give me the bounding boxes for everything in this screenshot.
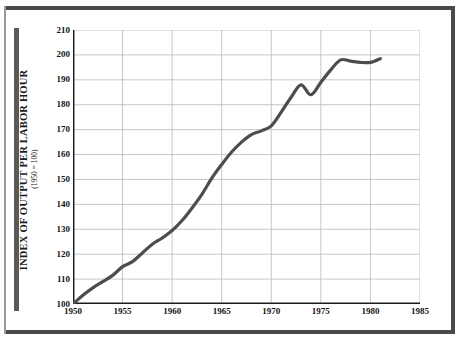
plot-area: [73, 30, 420, 304]
line-chart-svg: [73, 30, 420, 304]
axis-tick-marks: [73, 30, 420, 304]
y-axis-title-group: INDEX OF OUTPUT PER LABOR HOUR (1950 = 1…: [0, 28, 40, 311]
y-tick-label: 130: [44, 225, 70, 234]
data-series-line: [73, 59, 380, 304]
y-tick-label: 120: [44, 250, 70, 259]
horizontal-gridlines: [73, 30, 420, 304]
frame-border-top: [4, 6, 455, 10]
x-tick-label: 1980: [350, 306, 390, 316]
axis-lines: [73, 30, 420, 304]
x-tick-label: 1950: [53, 306, 93, 316]
y-tick-label: 210: [44, 26, 70, 35]
vertical-gridlines: [73, 30, 420, 304]
x-tick-label: 1955: [103, 306, 143, 316]
x-tick-label: 1975: [301, 306, 341, 316]
y-tick-label: 180: [44, 100, 70, 109]
frame-border-bottom: [4, 330, 455, 334]
y-axis-tick-labels: 100110120130140150160170180190200210: [40, 30, 70, 304]
y-tick-label: 170: [44, 125, 70, 134]
x-tick-label: 1960: [152, 306, 192, 316]
y-tick-label: 200: [44, 50, 70, 59]
x-tick-label: 1965: [202, 306, 242, 316]
x-tick-label: 1970: [251, 306, 291, 316]
x-axis-tick-labels: 19501955196019651970197519801985: [73, 306, 420, 320]
frame-border-right: [451, 6, 455, 334]
y-tick-label: 110: [44, 275, 70, 284]
y-tick-label: 150: [44, 175, 70, 184]
y-tick-label: 140: [44, 200, 70, 209]
y-tick-label: 160: [44, 150, 70, 159]
figure-frame: INDEX OF OUTPUT PER LABOR HOUR (1950 = 1…: [0, 0, 459, 342]
y-tick-label: 190: [44, 75, 70, 84]
x-tick-label: 1985: [400, 306, 440, 316]
